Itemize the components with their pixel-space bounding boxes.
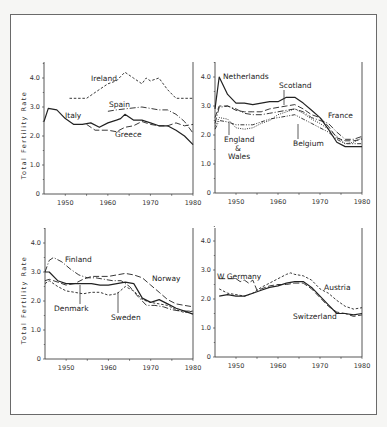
x-tick-label: 1980 <box>185 364 202 372</box>
y-tick-label: 0 <box>207 189 211 197</box>
x-tick-label: 1950 <box>58 364 75 372</box>
x-tick-label: 1980 <box>354 198 371 206</box>
y-axis-label-top: Total Fertility Rate <box>20 91 28 181</box>
label-greece: Greece <box>115 130 142 139</box>
x-tick-label: 1960 <box>100 364 117 372</box>
label-austria: Austria <box>324 283 351 292</box>
x-tick-label: 1970 <box>312 198 329 206</box>
x-tick-label: 1970 <box>142 199 159 207</box>
label-finland: Finland <box>65 255 92 264</box>
x-tick-label: 1980 <box>354 362 371 370</box>
y-tick-label: 1.0 <box>31 326 41 334</box>
label-wales: Wales <box>228 152 250 161</box>
y-tick-label: 4.0 <box>30 74 40 82</box>
x-tick-label: 1980 <box>185 199 202 207</box>
x-tick-label: 1970 <box>142 364 159 372</box>
x-tick-label: 1970 <box>312 362 329 370</box>
series-line-ireland <box>70 72 194 98</box>
label-england: England <box>224 135 255 144</box>
y-tick-label: 3.0 <box>201 266 211 274</box>
label-spain: Spain <box>109 100 130 109</box>
label-france: France <box>328 111 353 120</box>
y-tick-label: 4.0 <box>201 237 211 245</box>
y-tick-label: 1.0 <box>201 160 211 168</box>
label-denmark: Denmark <box>54 304 89 313</box>
panel-bottom-left: 01.02.03.04.01950196019701980 <box>31 228 202 372</box>
y-tick-label: 3.0 <box>201 102 211 110</box>
fertility-chart: 01.02.03.04.0195019601970198001.02.03.04… <box>0 0 387 427</box>
x-tick-label: 1950 <box>228 362 245 370</box>
y-tick-label: 3.0 <box>30 103 40 111</box>
y-tick-label: 4.0 <box>31 239 41 247</box>
y-tick-label: 0 <box>207 353 211 361</box>
x-tick-label: 1960 <box>270 362 287 370</box>
label-switzerland: Switzerland <box>293 312 337 321</box>
y-tick-label: 1.0 <box>30 161 40 169</box>
label-ireland: Ireland <box>91 74 117 83</box>
label-sweden: Sweden <box>111 313 141 322</box>
y-tick-label: 0 <box>37 355 41 363</box>
label-norway: Norway <box>152 274 181 283</box>
y-tick-label: 2.0 <box>201 295 211 303</box>
label-scotland: Scotland <box>279 81 312 90</box>
y-tick-label: 2.0 <box>31 297 41 305</box>
panel-bottom-right: 01.02.03.04.01950196019701980 <box>201 227 371 371</box>
x-tick-label: 1950 <box>57 199 74 207</box>
label-belgium: Belgium <box>293 139 324 148</box>
x-tick-label: 1950 <box>228 198 245 206</box>
x-tick-label: 1960 <box>100 199 117 207</box>
y-axis-label-bottom: Total Fertility Rate <box>20 256 28 346</box>
label-netherlands: Netherlands <box>223 72 269 81</box>
y-tick-label: 4.0 <box>201 73 211 81</box>
y-tick-label: 3.0 <box>31 268 41 276</box>
x-tick-label: 1960 <box>270 198 287 206</box>
label-italy: Italy <box>65 111 82 120</box>
y-tick-label: 2.0 <box>30 132 40 140</box>
y-tick-label: 2.0 <box>201 131 211 139</box>
y-tick-label: 1.0 <box>201 324 211 332</box>
y-tick-label: 0 <box>36 190 40 198</box>
label-wgermany: W Germany <box>217 272 262 281</box>
